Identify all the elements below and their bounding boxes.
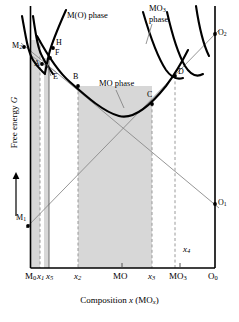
phase-label-MO: MO phase <box>99 79 134 88</box>
point-A <box>40 62 44 66</box>
phase-label-MO3-line2: phase <box>149 15 168 24</box>
point-label-O2: O2 <box>218 29 227 38</box>
phase-label-MO3: MO3 <box>149 4 166 13</box>
point-B <box>76 84 80 88</box>
point-label-A: A <box>34 60 40 68</box>
point-O2 <box>213 32 217 36</box>
figure-root: Free energy G <box>0 0 239 322</box>
xtick-label-x2: x2 <box>74 272 81 282</box>
shaded-band-x2-x3 <box>78 86 152 268</box>
curve-O-phase <box>196 6 209 56</box>
xtick-label-M0: M0 <box>25 272 36 282</box>
point-M2 <box>22 45 26 49</box>
point-label-M2: M2 <box>12 42 22 51</box>
inner-label-x4: x4 <box>183 245 190 255</box>
y-axis-label-text: Free energy <box>9 106 19 149</box>
x-axis-caption-prefix: Composition <box>80 295 129 305</box>
point-M1 <box>26 224 30 228</box>
xtick-label-x3: x3 <box>148 272 155 282</box>
y-axis-label: Free energy G <box>10 83 19 163</box>
y-axis-arrow <box>10 170 22 216</box>
shaded-band-x5 <box>44 58 49 268</box>
x-axis-caption-close: ) <box>156 295 159 305</box>
xtick-label-x5: x5 <box>46 272 53 282</box>
x-axis-caption-suffix: (MO <box>133 295 153 305</box>
point-label-C: C <box>147 91 152 99</box>
x-axis-caption: Composition x (MOx) <box>0 296 239 306</box>
point-label-F: F <box>55 49 59 57</box>
shaded-band-M0-x1 <box>31 40 41 268</box>
xtick-label-x1: x1 <box>37 272 44 282</box>
point-label-E: E <box>53 73 58 81</box>
point-O1 <box>213 202 217 206</box>
point-label-D: D <box>178 68 184 76</box>
point-label-M1: M1 <box>16 214 26 223</box>
point-label-H: H <box>56 39 62 47</box>
y-axis-label-symbol: G <box>9 97 19 104</box>
xtick-label-O0: O0 <box>208 272 218 282</box>
point-F <box>48 56 52 60</box>
xtick-label-MO3: MO3 <box>169 272 187 282</box>
point-label-B: B <box>73 73 78 81</box>
point-label-O1: O1 <box>218 199 227 208</box>
xtick-label-MO: MO <box>113 272 128 281</box>
phase-label-M-O: M(O) phase <box>67 11 108 20</box>
point-D <box>173 74 177 78</box>
point-C <box>150 102 154 106</box>
